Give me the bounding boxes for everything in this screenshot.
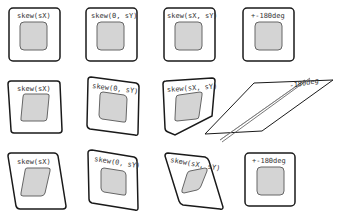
cell-label: +-180deg bbox=[252, 157, 286, 165]
cell-label: skew(0, sY) bbox=[91, 12, 137, 20]
cell-r1-c2: skew(0, sY) bbox=[86, 8, 137, 61]
cell-r3-c2: skew(0, sY) bbox=[88, 150, 141, 210]
cell-r1-c3: skew(sX, sY) bbox=[164, 8, 218, 61]
cell-label: skew(sX, sY) bbox=[167, 12, 218, 20]
cell-label: skew(sX) bbox=[17, 158, 51, 166]
cell-r3-c3: skew(sX, sY) bbox=[165, 153, 223, 209]
cell-label: skew(sX) bbox=[17, 85, 51, 93]
cell-r3-c4: +-180deg bbox=[245, 153, 295, 206]
cell-r1-c4: +-180deg bbox=[243, 8, 294, 61]
cell-r2-c4-skewed-wide: -180deg bbox=[205, 77, 333, 142]
cell-r1-c1: skew(sX) bbox=[9, 8, 60, 61]
cell-r2-c3: skew(sX, sY) bbox=[163, 78, 218, 135]
cell-r2-c1: skew(sX) bbox=[8, 81, 62, 133]
cell-r2-c2: skew(0, sY) bbox=[87, 77, 139, 135]
cell-label: +-180deg bbox=[251, 12, 285, 20]
cell-label: skew(sX) bbox=[17, 12, 51, 20]
cell-r3-c1: skew(sX) bbox=[8, 153, 66, 209]
skew-diagram: skew(sX) skew(0, sY) skew(sX, sY) +-180d… bbox=[0, 0, 339, 218]
